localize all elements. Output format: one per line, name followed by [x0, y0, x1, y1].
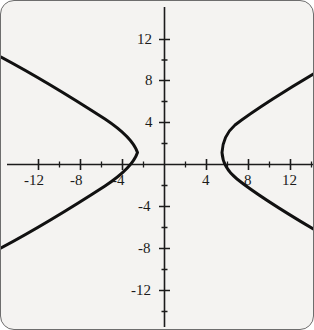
- ytick-label-12: 12: [137, 32, 152, 47]
- ytick-label-neg4: -4: [138, 199, 151, 214]
- ytick-label-neg8: -8: [138, 241, 151, 256]
- axes-group: [7, 7, 314, 327]
- ytick-label-4: 4: [145, 115, 153, 130]
- right-branch-curve: [222, 73, 314, 230]
- xtick-label-12: 12: [282, 173, 297, 188]
- hyperbola-plot: [1, 1, 314, 330]
- xtick-label-neg4: -4: [112, 173, 125, 188]
- hyperbola-curves: [1, 57, 314, 248]
- xtick-label-neg12: -12: [24, 173, 44, 188]
- ytick-label-neg12: -12: [131, 283, 151, 298]
- xtick-label-neg8: -8: [70, 173, 83, 188]
- xtick-label-8: 8: [244, 173, 252, 188]
- ytick-label-8: 8: [145, 73, 153, 88]
- left-branch-curve: [1, 57, 138, 248]
- xtick-label-4: 4: [202, 173, 210, 188]
- chart-frame: -12 -8 -4 4 8 12 12 8 4 -4 -8 -12: [0, 0, 314, 330]
